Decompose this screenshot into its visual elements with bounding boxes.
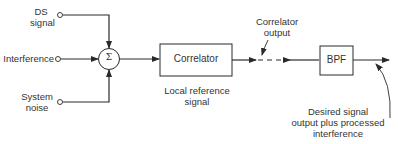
- ds-signal-path: [58, 13, 110, 49]
- local-reference-caption: Local reference signal: [162, 85, 232, 107]
- interference-label: Interference: [0, 53, 54, 64]
- bpf-label: BPF: [320, 54, 353, 65]
- system-noise-label: System noise: [20, 91, 54, 113]
- interference-input-terminal-icon: [56, 57, 61, 62]
- correlator-output-pointer-icon: [262, 40, 268, 55]
- noise-input-terminal-icon: [58, 100, 63, 105]
- ds-input-terminal-icon: [58, 13, 63, 18]
- output-note: Desired signal output plus processed int…: [286, 106, 390, 139]
- ds-signal-label: DS signal: [30, 6, 52, 28]
- correlator-output-label: Correlator output: [254, 16, 300, 38]
- interference-path: [56, 57, 99, 62]
- system-noise-path: [58, 70, 110, 105]
- correlator-label: Correlator: [160, 53, 232, 64]
- sigma-symbol: Σ: [103, 52, 115, 62]
